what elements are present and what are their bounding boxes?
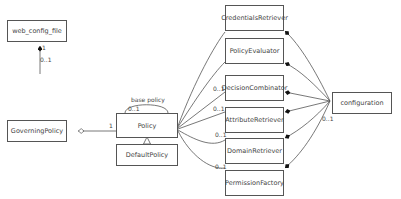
class-name: DomainRetriever [227,147,282,155]
class-credentials-retriever[interactable]: CredentialsRetriever [225,5,284,31]
multiplicity-label: 0..1 [213,106,224,112]
class-name: PermissionFactory [225,179,284,187]
class-name: web_config_file [12,27,62,35]
class-name: PolicyEvaluator [230,47,280,55]
generalization-arrow [144,137,151,144]
class-web-config-file[interactable]: web_config_file [7,20,67,42]
class-name: DefaultPolicy [126,151,168,159]
role-label-base-policy: base policy [131,97,165,103]
multiplicity-label: 0..1 [322,116,333,122]
class-domain-retriever[interactable]: DomainRetriever [225,138,284,164]
multiplicity-label: 0..1 [215,164,226,170]
class-name: DecisionCombinator [222,84,288,92]
class-name: GoverningPolicy [11,127,63,135]
class-name: configuration [340,99,383,107]
class-default-policy[interactable]: DefaultPolicy [116,144,178,166]
class-name: Policy [138,122,157,130]
class-permission-factory[interactable]: PermissionFactory [225,170,284,196]
multiplicity-label: 0..1 [213,86,224,92]
class-governing-policy[interactable]: GoverningPolicy [7,120,67,142]
class-policy[interactable]: Policy [116,113,178,138]
class-decision-combinator[interactable]: DecisionCombinator [225,75,284,101]
class-attribute-retriever[interactable]: AttributeRetriever [225,107,284,133]
class-configuration[interactable]: configuration [332,92,392,114]
class-policy-evaluator[interactable]: PolicyEvaluator [225,38,284,64]
multiplicity-label: 0..1 [128,106,139,112]
multiplicity-label: 1 [42,45,46,51]
multiplicity-label: 0..1 [40,57,51,63]
class-name: AttributeRetriever [225,116,283,124]
multiplicity-label: 0..1 [215,132,226,138]
multiplicity-label: 1 [109,123,113,129]
class-name: CredentialsRetriever [221,14,288,22]
